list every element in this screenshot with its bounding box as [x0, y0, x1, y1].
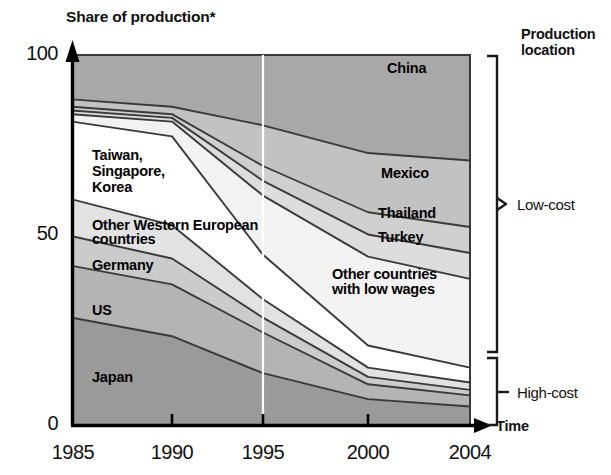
legend-label-high-cost: High-cost	[517, 384, 578, 401]
low-cost-bracket	[487, 56, 497, 352]
band-label-mexico: Mexico	[381, 166, 429, 182]
band-label-taiwan-line2: Singapore,	[92, 164, 165, 180]
y-tick-50: 50	[10, 222, 58, 245]
low-cost-bracket-nib	[497, 198, 506, 210]
x-tick-1995: 1995	[223, 441, 303, 464]
y-tick-0: 0	[10, 412, 58, 435]
x-tick-1990: 1990	[132, 441, 212, 464]
band-label-china: China	[387, 61, 426, 77]
chart-figure: Share of production* 100 50 0 1985 1990 …	[0, 0, 611, 475]
band-label-other-low-wages-line2: with low wages	[332, 282, 435, 298]
band-label-taiwan-line3: Korea	[92, 180, 132, 196]
y-axis-title: Share of production*	[66, 8, 215, 26]
legend-brackets	[487, 56, 509, 425]
legend-label-low-cost: Low-cost	[517, 196, 575, 213]
y-axis-arrowhead	[66, 40, 80, 62]
band-label-germany: Germany	[92, 258, 153, 274]
band-label-taiwan-line1: Taiwan,	[92, 148, 143, 164]
band-label-turkey: Turkey	[378, 230, 423, 246]
legend-title-line1: Production	[521, 26, 596, 42]
x-tick-2000: 2000	[328, 441, 408, 464]
band-label-other-weu-line2: countries	[92, 232, 155, 248]
band-label-japan: Japan	[92, 370, 133, 386]
x-tick-1985: 1985	[33, 441, 113, 464]
x-tick-2004: 2004	[430, 441, 510, 464]
y-tick-100: 100	[10, 42, 58, 65]
high-cost-bracket	[487, 358, 497, 425]
x-axis-title: Time	[496, 418, 529, 434]
band-label-us: US	[92, 303, 112, 319]
band-label-thailand: Thailand	[378, 206, 436, 222]
legend-title-line2: location	[521, 42, 575, 58]
